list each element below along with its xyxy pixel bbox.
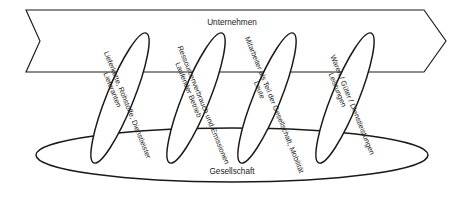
unternehmen-label: Unternehmen (207, 18, 257, 27)
business-society-diagram: Lieferkette, Rohstoffe, Dienstleister Li… (0, 0, 470, 199)
gesellschaft-label: Gesellschaft (209, 167, 255, 176)
diagram-canvas: Lieferkette, Rohstoffe, Dienstleister Li… (0, 0, 470, 199)
